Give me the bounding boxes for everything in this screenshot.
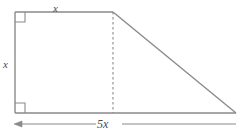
- geometry-figure: x x 5x: [0, 0, 240, 132]
- base-dimension-label: 5x: [97, 118, 108, 130]
- top-side-length-label: x: [53, 3, 58, 14]
- triangle-hypotenuse-line: [113, 12, 236, 113]
- geometry-canvas: [0, 0, 240, 132]
- base-dimension-left-arrowhead-icon: [14, 121, 22, 127]
- left-side-length-label: x: [3, 59, 8, 70]
- right-angle-marker-bottom-left-icon: [15, 103, 25, 113]
- right-angle-marker-top-left-icon: [15, 12, 25, 22]
